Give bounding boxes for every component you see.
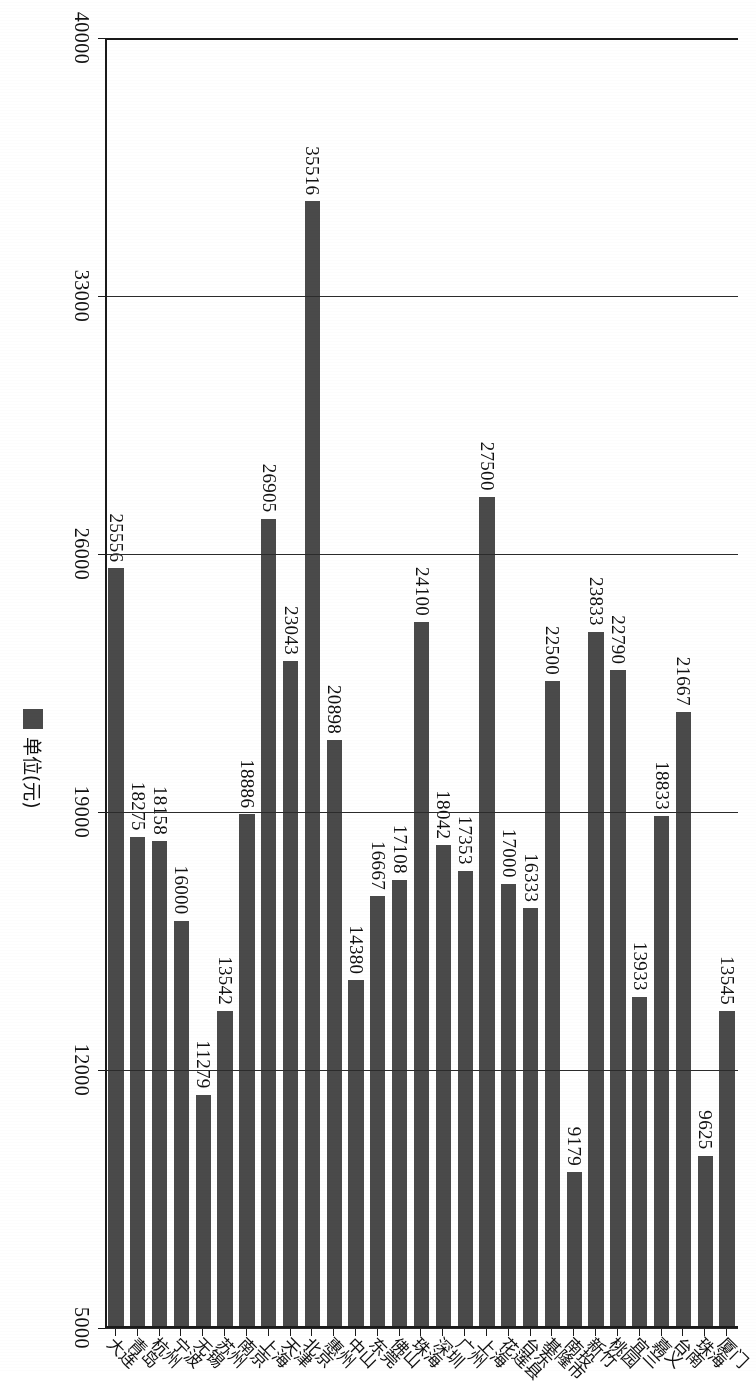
bar[interactable] [719,1011,734,1326]
value-tick [98,296,105,297]
bar[interactable] [217,1011,232,1326]
bar[interactable] [458,871,473,1326]
bar-slot: 18833 [654,40,669,1326]
bar[interactable] [698,1156,713,1326]
bar-value-label: 23043 [280,606,302,655]
bar[interactable] [327,740,342,1326]
bar-value-label: 16000 [170,866,192,915]
bar-value-label: 16333 [520,853,542,902]
gridline [105,1070,738,1071]
legend-label: 单位(元) [20,737,47,809]
bar-value-label: 13933 [629,942,651,991]
bar[interactable] [108,568,123,1326]
bar-value-label: 17108 [389,825,411,874]
bar-slot: 18886 [239,40,254,1326]
bar-slot: 26905 [261,40,276,1326]
bar-slot: 16667 [370,40,385,1326]
value-tick [98,554,105,555]
bar[interactable] [589,632,604,1326]
bar[interactable] [152,841,167,1326]
bar-slot: 14380 [348,40,363,1326]
bar[interactable] [305,201,320,1326]
bar-value-label: 13545 [716,956,738,1005]
bar[interactable] [610,670,625,1326]
bar-slot: 23833 [589,40,604,1326]
bar-value-label: 14380 [345,925,367,974]
bar[interactable] [676,712,691,1326]
value-tick [98,38,105,39]
bar-slot: 24100 [414,40,429,1326]
bar-slot: 20898 [327,40,342,1326]
bar-slot: 22500 [545,40,560,1326]
bar-series: 1354596252166718833139332279023833917922… [107,40,738,1326]
bar-slot: 17108 [392,40,407,1326]
gridline [105,554,738,555]
bar-value-label: 24100 [411,567,433,616]
bar-value-label: 18042 [432,790,454,839]
bar[interactable] [654,816,669,1326]
value-axis-line [105,38,107,1328]
bar[interactable] [436,845,451,1326]
bar[interactable] [392,880,407,1326]
bar[interactable] [174,921,189,1326]
bar[interactable] [632,997,647,1326]
bar[interactable] [261,519,276,1326]
bar-slot: 13542 [217,40,232,1326]
bar[interactable] [283,661,298,1326]
value-tick-label: 19000 [70,786,93,839]
axis-left-border [105,38,738,40]
bar-slot: 21667 [676,40,691,1326]
bar-slot: 18042 [436,40,451,1326]
bar-value-label: 35516 [301,146,323,195]
bar-slot: 13545 [719,40,734,1326]
gridline [105,812,738,813]
bar[interactable] [523,908,538,1326]
bar-value-label: 18886 [236,759,258,808]
value-tick-label: 12000 [70,1044,93,1097]
bar-slot: 11279 [196,40,211,1326]
bar-slot: 16000 [174,40,189,1326]
chart-legend: 单位(元) [20,709,47,809]
bar[interactable] [130,837,145,1326]
value-tick-label: 33000 [70,270,93,323]
bar[interactable] [348,980,363,1326]
bar-slot: 35516 [305,40,320,1326]
bar-value-label: 22790 [607,615,629,664]
bar-value-label: 11279 [192,1040,214,1088]
bar-slot: 9179 [567,40,582,1326]
value-tick-label: 40000 [70,12,93,65]
bar[interactable] [567,1172,582,1326]
bar-value-label: 25556 [105,513,127,562]
bar-slot: 16333 [523,40,538,1326]
value-tick [98,1328,105,1329]
bar-slot: 23043 [283,40,298,1326]
bar-slot: 27500 [479,40,494,1326]
bar-value-label: 17000 [498,829,520,878]
bar-slot: 13933 [632,40,647,1326]
bar-value-label: 22500 [541,626,563,675]
bar-value-label: 13542 [214,956,236,1005]
bar-value-label: 17353 [454,816,476,865]
bar-slot: 25556 [108,40,123,1326]
value-tick-label: 26000 [70,528,93,581]
bar-slot: 18158 [152,40,167,1326]
bar[interactable] [370,896,385,1326]
bar[interactable] [545,681,560,1326]
bar-value-label: 26905 [258,464,280,513]
gridline [105,1328,738,1329]
bar-value-label: 21667 [672,657,694,706]
bar[interactable] [196,1095,211,1326]
bar-value-label: 23833 [585,577,607,626]
bar-value-label: 18833 [651,761,673,810]
bar[interactable] [414,622,429,1326]
value-tick [98,812,105,813]
bar-slot: 17353 [458,40,473,1326]
bar[interactable] [479,497,494,1326]
value-tick-label: 5000 [70,1307,93,1349]
plot-area: 1354596252166718833139332279023833917922… [105,38,738,1328]
value-tick [98,1070,105,1071]
bar-slot: 9625 [698,40,713,1326]
bar-value-label: 9179 [563,1127,585,1166]
bar[interactable] [501,884,516,1326]
